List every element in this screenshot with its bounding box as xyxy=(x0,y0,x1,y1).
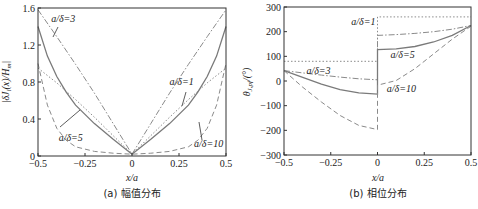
phase-y-axis-label: θJ,pf/(°) xyxy=(241,67,254,96)
y-tick-label: 0.4 xyxy=(23,114,36,125)
phase-x-axis-label: x/a xyxy=(371,172,384,183)
y-tick-label: 0 xyxy=(30,151,35,162)
leader-line xyxy=(60,110,80,127)
y-tick-label: 0 xyxy=(276,76,281,87)
y-tick-label: −200 xyxy=(260,125,281,136)
phase-annotations: a/δ=1a/δ=5a/δ=3a/δ=10 xyxy=(306,16,416,94)
y-tick-label: 100 xyxy=(266,51,281,62)
annotation-label: a/δ=1 xyxy=(170,76,194,87)
y-tick-label: 0.8 xyxy=(23,77,36,88)
annotation-label: a/δ=5 xyxy=(391,49,415,60)
x-tick-label: 0 xyxy=(375,157,380,168)
x-tick-label: −0.25 xyxy=(319,157,342,168)
amplitude-annotations: a/δ=3a/δ=1a/δ=5a/δ=10 xyxy=(51,13,223,149)
y-tick-label: −100 xyxy=(260,100,281,111)
y-tick-label: 200 xyxy=(266,26,281,37)
y-tick-label: 1.6 xyxy=(23,3,36,14)
y-tick-label: 1.2 xyxy=(23,40,36,51)
annotation-label: a/δ=1 xyxy=(351,16,375,27)
annotation-label: a/δ=3 xyxy=(306,65,330,76)
x-tick-label: 0 xyxy=(130,158,135,169)
amplitude-x-axis-label: x/a xyxy=(125,172,138,183)
annotation-label: a/δ=5 xyxy=(59,132,83,143)
amplitude-chart: −0.5−0.2500.250.500.40.81.21.6 a/δ=3a/δ=… xyxy=(0,3,232,200)
y-tick-label: −300 xyxy=(260,150,281,161)
amplitude-y-axis-label: |δJi(x)/Hm| xyxy=(0,61,13,104)
x-tick-label: 0.5 xyxy=(220,158,233,169)
annotation-label: a/δ=10 xyxy=(194,138,223,149)
x-tick-label: 0.25 xyxy=(170,158,188,169)
annotation-label: a/δ=10 xyxy=(387,83,416,94)
phase-caption: (b) 相位分布 xyxy=(349,187,406,199)
annotation-label: a/δ=3 xyxy=(51,13,75,24)
svg-text:|δJi(x)/Hm|: |δJi(x)/Hm| xyxy=(0,61,13,104)
x-tick-label: −0.25 xyxy=(73,158,96,169)
x-tick-label: 0.25 xyxy=(416,157,434,168)
amplitude-caption: (a) 幅值分布 xyxy=(103,187,160,199)
phase-chart: −0.5−0.2500.250.5−300−200−1000100200300 … xyxy=(241,2,477,200)
x-tick-label: 0.5 xyxy=(465,157,478,168)
y-tick-label: 300 xyxy=(266,2,281,13)
svg-text:θJ,pf/(°): θJ,pf/(°) xyxy=(241,67,254,96)
figure: −0.5−0.2500.250.500.40.81.21.6 a/δ=3a/δ=… xyxy=(0,0,478,209)
